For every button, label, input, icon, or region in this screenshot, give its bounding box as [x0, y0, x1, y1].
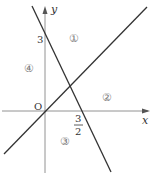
x-axis-arrow-icon [142, 109, 150, 114]
coordinate-diagram: y x O 3 3 2 ① ② ③ ④ [0, 0, 156, 178]
region-3-label: ③ [60, 135, 70, 148]
region-4-label: ④ [24, 62, 34, 75]
y-intercept-label: 3 [37, 34, 43, 45]
y-axis-label: y [50, 3, 58, 16]
region-2-label: ② [102, 91, 112, 104]
y-axis-arrow-icon [43, 6, 48, 14]
decreasing-line [32, 6, 111, 172]
x-intercept-numerator: 3 [75, 113, 81, 124]
x-axis-label: x [142, 114, 149, 127]
region-1-label: ① [69, 32, 79, 45]
x-intercept-denominator: 2 [75, 126, 81, 137]
origin-label: O [34, 101, 42, 112]
diagram-canvas: y x O 3 3 2 ① ② ③ ④ [0, 0, 156, 178]
